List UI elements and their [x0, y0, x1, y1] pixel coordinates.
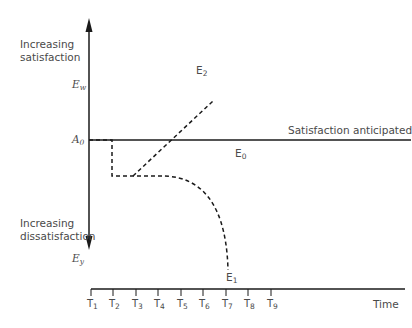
tick-t4: T4	[154, 298, 165, 311]
ew-label: Ew	[72, 78, 86, 94]
a0-label: A0	[72, 133, 84, 149]
ey-label: Ey	[72, 252, 84, 268]
tick-t6: T6	[199, 298, 210, 311]
increasing-satisfaction-label: Increasing satisfaction	[20, 38, 80, 64]
e1-dashed-path	[89, 140, 228, 270]
tick-t5: T5	[177, 298, 188, 311]
tick-t7: T7	[222, 298, 233, 311]
tick-t8: T8	[244, 298, 255, 311]
tick-t2: T2	[109, 298, 120, 311]
time-axis-ticks	[91, 289, 271, 296]
time-axis-label: Time	[373, 298, 399, 311]
label-line: Increasing	[20, 38, 80, 51]
label-line: satisfaction	[20, 51, 80, 64]
increasing-dissatisfaction-label: Increasing dissatisfaction	[20, 217, 95, 243]
label-line: dissatisfaction	[20, 230, 95, 243]
e1-label: E1	[226, 271, 237, 287]
label-line: Increasing	[20, 217, 95, 230]
tick-t9: T9	[267, 298, 278, 311]
arrow-up-icon	[86, 18, 93, 32]
satisfaction-anticipated-label: Satisfaction anticipated	[288, 124, 412, 137]
tick-t3: T3	[132, 298, 143, 311]
e0-label: E0	[235, 147, 246, 163]
e2-label: E2	[196, 64, 207, 80]
tick-t1: T1	[87, 298, 98, 311]
e2-dashed-line	[133, 101, 213, 176]
